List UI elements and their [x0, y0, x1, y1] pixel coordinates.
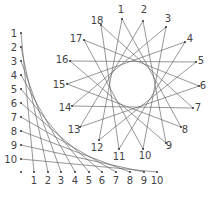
- left-axis-label: 5: [11, 84, 17, 95]
- corner-curve-lines: [21, 33, 157, 172]
- star-dot: [121, 18, 123, 20]
- left-axis-dot: [20, 116, 22, 118]
- star-label: 3: [165, 13, 171, 24]
- star-line: [143, 21, 166, 143]
- left-axis-label: 8: [11, 126, 17, 137]
- bottom-axis-dot: [47, 171, 49, 173]
- stitch-line: [21, 145, 144, 172]
- bottom-axis-label: 10: [151, 175, 164, 186]
- star-line: [143, 27, 166, 149]
- left-axis-dot: [20, 130, 22, 132]
- left-axis-label: 1: [11, 28, 17, 39]
- left-axis-label: 9: [11, 140, 17, 151]
- star-line: [84, 40, 143, 149]
- left-axis-label: 10: [4, 154, 17, 165]
- star-line: [80, 21, 143, 127]
- star-line: [70, 61, 196, 62]
- star-line: [122, 19, 181, 127]
- star-label: 8: [182, 124, 188, 135]
- bottom-axis-dot: [60, 171, 62, 173]
- star-dot: [118, 148, 120, 150]
- bottom-axis-label: 9: [141, 175, 147, 186]
- star-label: 16: [56, 54, 69, 65]
- star-dot: [142, 20, 144, 22]
- corner-dot: [20, 171, 22, 173]
- star-label: 5: [198, 55, 204, 66]
- left-axis-dot: [20, 158, 22, 160]
- bottom-axis-dot: [101, 171, 103, 173]
- bottom-axis-dot: [88, 171, 90, 173]
- bottom-axis-label: 4: [72, 175, 78, 186]
- star-dot: [66, 83, 68, 85]
- left-axis-dot: [20, 60, 22, 62]
- bottom-axis-label: 6: [99, 175, 105, 186]
- star-label: 7: [195, 102, 201, 113]
- star-label: 4: [187, 33, 193, 44]
- bottom-axis-dot: [115, 171, 117, 173]
- star-line: [101, 25, 193, 108]
- star-label: 2: [141, 4, 147, 15]
- star-dot: [165, 26, 167, 28]
- curve-stitching-diagram: 1234567891012345678910 12345678910111213…: [0, 0, 212, 199]
- star-label: 15: [53, 79, 66, 90]
- star-dot: [192, 107, 194, 109]
- bottom-axis-label: 5: [86, 175, 92, 186]
- star-label: 14: [59, 102, 72, 113]
- star-label: 12: [91, 142, 104, 153]
- bottom-axis-dot: [156, 171, 158, 173]
- bottom-axis-dot: [74, 171, 76, 173]
- star-dot: [83, 39, 85, 41]
- bottom-axis-dot: [129, 171, 131, 173]
- star-dot: [184, 41, 186, 43]
- star-label: 9: [166, 140, 172, 151]
- star-label: 1: [118, 4, 124, 15]
- star-line: [72, 106, 193, 108]
- left-axis-label: 3: [11, 56, 17, 67]
- bottom-axis-dot: [143, 171, 145, 173]
- star-line: [67, 42, 185, 84]
- star-dot: [195, 61, 197, 63]
- bottom-axis-label: 3: [58, 175, 64, 186]
- star-points: 123456789101112131415161718: [53, 4, 207, 162]
- left-axis-dot: [20, 32, 22, 34]
- star-label: 11: [113, 151, 126, 162]
- star-dot: [98, 139, 100, 141]
- bottom-axis-label: 7: [113, 175, 119, 186]
- left-axis-dot: [20, 102, 22, 104]
- bottom-axis-label: 2: [45, 175, 51, 186]
- star-label: 18: [91, 15, 104, 26]
- left-axis-label: 2: [11, 42, 17, 53]
- left-axis-dot: [20, 74, 22, 76]
- star-lines: [67, 19, 199, 149]
- star-label: 10: [139, 150, 152, 161]
- stitch-line: [21, 47, 48, 172]
- left-axis-label: 6: [11, 98, 17, 109]
- left-axis-dot: [20, 144, 22, 146]
- star-label: 13: [68, 124, 81, 135]
- star-dot: [69, 60, 71, 62]
- star-label: 6: [200, 80, 206, 91]
- left-axis-label: 7: [11, 112, 17, 123]
- bottom-axis-label: 8: [127, 175, 133, 186]
- left-axis-dot: [20, 46, 22, 48]
- bottom-axis-label: 1: [31, 175, 37, 186]
- star-label: 17: [70, 33, 83, 44]
- left-axis-dot: [20, 88, 22, 90]
- bottom-axis-dot: [33, 171, 35, 173]
- left-axis-label: 4: [11, 70, 17, 81]
- stitch-line: [21, 61, 61, 172]
